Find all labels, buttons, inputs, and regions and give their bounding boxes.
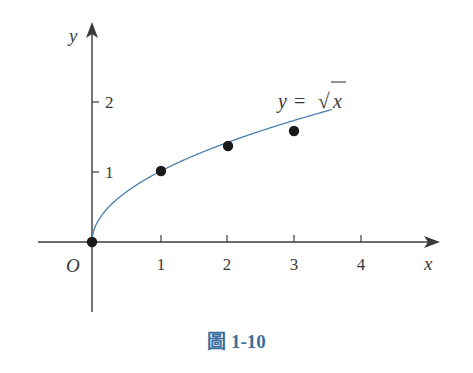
y-tick-label-2: 2	[105, 93, 114, 112]
point-0-0	[87, 237, 97, 247]
data-points	[87, 126, 299, 247]
svg-text:√: √	[318, 89, 330, 113]
svg-text:y: y	[276, 90, 287, 113]
x-tick-label-3: 3	[290, 255, 299, 274]
svg-text:=: =	[294, 90, 305, 112]
sqrt-function-graph: 1 2 3 4 2 1 y x O y = √ x	[0, 0, 473, 373]
point-3-sqrt3	[289, 126, 299, 136]
y-ticks	[92, 102, 99, 172]
function-label: y = √ x	[276, 82, 346, 113]
x-tick-label-1: 1	[157, 255, 166, 274]
y-tick-label-1: 1	[105, 163, 114, 182]
x-axis-label: x	[423, 253, 433, 274]
x-tick-label-4: 4	[357, 255, 366, 274]
x-tick-label-2: 2	[223, 255, 232, 274]
figure-caption: 圖 1-10	[0, 326, 473, 353]
x-ticks	[161, 235, 361, 242]
origin-label: O	[66, 255, 80, 276]
point-1-1	[156, 166, 166, 176]
point-2-sqrt2	[223, 141, 233, 151]
svg-text:x: x	[332, 90, 342, 112]
y-axis-label: y	[67, 25, 78, 46]
